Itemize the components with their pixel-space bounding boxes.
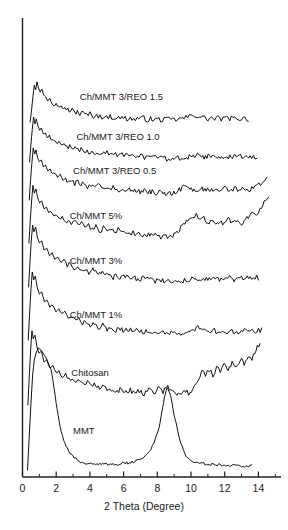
x-tick-label: 8 (154, 482, 160, 494)
diffraction-curve (28, 348, 252, 470)
x-tick-label: 2 (53, 482, 59, 494)
x-tick-label: 14 (253, 482, 265, 494)
series-label: MMT (73, 425, 95, 436)
series-label: Ch/MMT 3% (70, 255, 123, 266)
x-tick-label: 10 (185, 482, 197, 494)
xrd-figure: 02468101214 Ch/MMT 3/REO 1.5Ch/MMT 3/REO… (0, 0, 288, 530)
x-tick-label: 12 (219, 482, 231, 494)
x-tick-label: 6 (121, 482, 127, 494)
x-axis-tick-labels: 02468101214 (20, 482, 265, 494)
x-tick-label: 4 (87, 482, 93, 494)
series-label: Chitosan (71, 367, 109, 378)
series-label: Ch/MMT 3/REO 1.0 (76, 131, 159, 142)
diffraction-curve (28, 331, 260, 405)
axes-group: 02468101214 (20, 18, 281, 494)
diffraction-curve (28, 272, 262, 340)
series-label: Ch/MMT 3/REO 1.5 (80, 91, 163, 102)
x-axis-title: 2 Theta (Degree) (104, 500, 184, 512)
series-label: Ch/MMT 5% (70, 210, 123, 221)
xrd-plot-svg: 02468101214 Ch/MMT 3/REO 1.5Ch/MMT 3/REO… (0, 0, 288, 530)
diffraction-curve (30, 82, 248, 122)
x-axis-ticks (23, 472, 276, 478)
series-label: Ch/MMT 3/REO 0.5 (73, 165, 156, 176)
diffraction-curve (29, 185, 269, 243)
series-label: Ch/MMT 1% (70, 309, 123, 320)
x-tick-label: 0 (20, 482, 26, 494)
diffraction-curve (29, 225, 259, 287)
